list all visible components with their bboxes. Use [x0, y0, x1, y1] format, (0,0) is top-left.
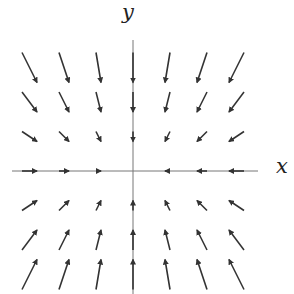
y-axis-label: y: [122, 2, 134, 23]
vector-field-plot: [0, 0, 294, 294]
vector-arrow: [22, 230, 37, 250]
vector-arrow: [165, 132, 170, 142]
vector-arrow: [197, 53, 207, 83]
x-axis-label: x: [276, 156, 288, 177]
vector-arrow: [96, 132, 101, 142]
vector-arrow: [22, 92, 37, 112]
vector-arrow: [165, 201, 170, 211]
vector-arrow: [165, 92, 170, 112]
vector-arrow: [96, 201, 101, 211]
vector-arrow: [165, 230, 170, 250]
vector-arrow: [165, 53, 170, 83]
vector-arrow: [229, 92, 244, 112]
vector-arrow: [229, 230, 244, 250]
vector-arrow: [197, 201, 207, 211]
vector-arrow: [22, 260, 37, 290]
vector-arrow: [165, 260, 170, 290]
vector-arrow: [96, 230, 101, 250]
vector-arrow: [59, 92, 69, 112]
vector-arrow: [59, 230, 69, 250]
vector-arrow: [96, 260, 101, 290]
vector-arrow: [59, 260, 69, 290]
vector-arrow: [22, 53, 37, 83]
vector-arrow: [197, 92, 207, 112]
vector-arrow: [59, 132, 69, 142]
vector-arrow: [197, 230, 207, 250]
vector-arrow: [197, 260, 207, 290]
vector-arrow: [22, 201, 37, 211]
vector-arrow: [229, 132, 244, 142]
vector-arrow: [59, 53, 69, 83]
vector-arrow: [22, 132, 37, 142]
vector-arrow: [197, 132, 207, 142]
vector-arrow: [96, 53, 101, 83]
vector-arrow: [96, 92, 101, 112]
vector-arrow: [229, 201, 244, 211]
vector-arrow: [59, 201, 69, 211]
vector-arrow: [229, 260, 244, 290]
vector-arrow: [229, 53, 244, 83]
